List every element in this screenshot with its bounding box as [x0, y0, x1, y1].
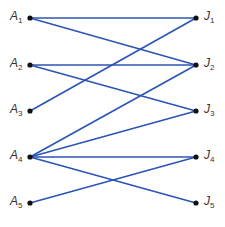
label-J2: J2 [204, 56, 214, 72]
label-A5: A5 [10, 194, 22, 210]
node-A4 [27, 154, 32, 159]
edge-A4-J3 [30, 111, 196, 157]
bipartite-diagram: A1A2A3A4A5J1J2J3J4J5 [0, 0, 225, 227]
label-A3: A3 [10, 102, 22, 118]
label-A2: A2 [10, 56, 22, 72]
label-A1: A1 [10, 9, 22, 25]
node-J4 [193, 154, 198, 159]
node-J2 [193, 62, 198, 67]
label-A4: A4 [10, 148, 22, 164]
edge-A2-J3 [30, 65, 196, 111]
edge-A4-J2 [30, 65, 196, 157]
node-A1 [27, 15, 32, 20]
node-J5 [193, 200, 198, 205]
node-A3 [27, 108, 32, 113]
label-J4: J4 [204, 148, 214, 164]
node-A5 [27, 200, 32, 205]
label-J3: J3 [204, 102, 214, 118]
node-J1 [193, 15, 198, 20]
edge-A1-J2 [30, 18, 196, 65]
graph-canvas [0, 0, 225, 227]
label-J5: J5 [204, 194, 214, 210]
node-J3 [193, 108, 198, 113]
node-A2 [27, 62, 32, 67]
label-J1: J1 [204, 9, 214, 25]
